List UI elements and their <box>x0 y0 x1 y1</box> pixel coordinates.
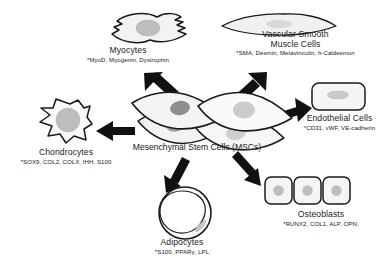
osteoblasts-markers: *RUNX2, COL1, ALP, OPN, <box>258 221 384 228</box>
chondrocytes-markers: *SOX9, COL2, COLX, IHH, S100 <box>0 159 132 166</box>
osteoblasts-title: Osteoblasts <box>258 210 384 220</box>
label-osteoblasts: Osteoblasts *RUNX2, COL1, ALP, OPN, <box>258 210 384 227</box>
myocytes-title: Myocytes <box>58 46 198 56</box>
msc-center-title: Mesenchymal Stem Cells (MSCs) <box>108 142 286 152</box>
endothelial-title: Endothelial Cells <box>290 114 389 124</box>
adipocytes-markers: *S100, PPARγ, LPL <box>128 249 236 256</box>
label-myocytes: Myocytes *MyoD, Myogenin, Dystrophin <box>58 46 198 63</box>
osteoblast-cell-icon <box>265 177 350 204</box>
myocytes-markers: *MyoD, Myogenin, Dystrophin <box>58 57 198 64</box>
label-endothelial-cells: Endothelial Cells *CD31, vWF, VE-cadheri… <box>290 114 389 131</box>
label-adipocytes: Adipocytes *S100, PPARγ, LPL <box>128 238 236 255</box>
adipocytes-title: Adipocytes <box>128 238 236 248</box>
vsmc-title-line2: Muscle Cells <box>208 40 383 50</box>
vsmc-markers: *SMA, Desmin, Metavinculin, h-Caldesmon <box>208 50 383 57</box>
endothelial-cell-icon <box>312 83 365 110</box>
myocyte-cell-icon <box>112 14 186 43</box>
msc-differentiation-figure: Myocytes *MyoD, Myogenin, Dystrophin Vas… <box>0 0 389 271</box>
label-vascular-smooth-muscle-cells: Vascular Smooth Muscle Cells *SMA, Desmi… <box>208 30 383 57</box>
adipocyte-cell-icon <box>159 187 211 239</box>
chondrocyte-cell-icon <box>40 99 92 143</box>
endothelial-markers: *CD31, vWF, VE-cadherin <box>290 125 389 132</box>
